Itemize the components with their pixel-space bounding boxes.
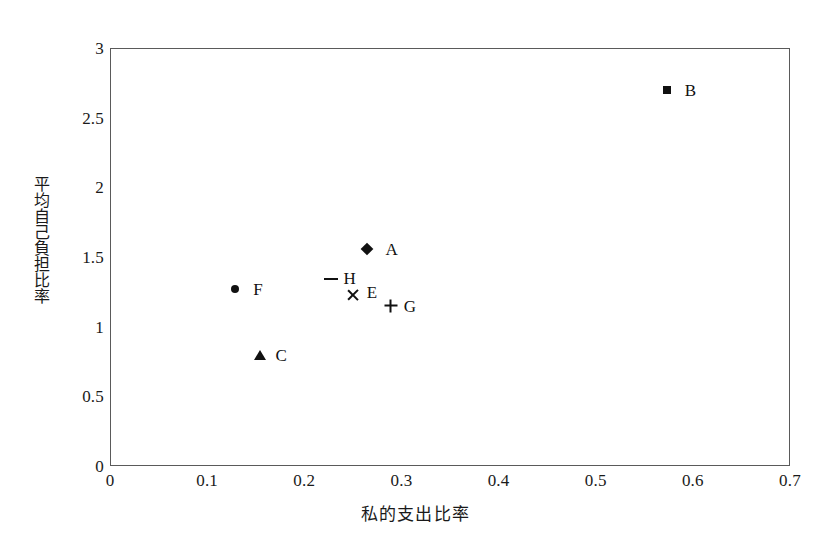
cross-marker-icon: [347, 289, 359, 301]
y-axis-tick-label: 1: [58, 319, 104, 336]
data-point-label: G: [404, 297, 416, 314]
y-axis-tick-label: 3: [58, 40, 104, 57]
data-point-label: E: [367, 283, 377, 300]
y-axis-tick-label: 2: [58, 179, 104, 196]
plot-area: [110, 48, 790, 466]
x-axis-tick-label: 0.6: [663, 472, 723, 489]
data-point-label: A: [385, 240, 397, 257]
y-axis-tick-labels: 00.511.522.53: [48, 0, 104, 547]
data-point-label: C: [276, 346, 287, 363]
y-axis-title: 平均自己負担比率: [28, 176, 50, 304]
y-axis-tick-label: 2.5: [58, 110, 104, 127]
square-marker-icon: [663, 86, 671, 94]
x-axis-tick-label: 0.1: [177, 472, 237, 489]
plus-marker-icon: [384, 299, 397, 312]
data-point-label: H: [344, 270, 356, 287]
y-axis-tick-label: 0.5: [58, 388, 104, 405]
x-axis-tick-label: 0.3: [371, 472, 431, 489]
scatter-chart: 00.511.522.53 00.10.20.30.40.50.60.7 ABC…: [0, 0, 831, 547]
x-axis-tick-label: 0.5: [566, 472, 626, 489]
data-point-label: F: [253, 281, 262, 298]
x-axis-tick-label: 0.4: [469, 472, 529, 489]
x-axis-title: 私的支出比率: [0, 500, 831, 525]
x-axis-tick-label: 0.7: [760, 472, 820, 489]
circle-marker-icon: [231, 285, 239, 293]
dash-marker-icon: [324, 278, 338, 280]
x-axis-tick-label: 0.2: [274, 472, 334, 489]
y-axis-tick-label: 1.5: [58, 249, 104, 266]
data-point-label: B: [685, 81, 696, 98]
x-axis-tick-label: 0: [80, 472, 140, 489]
triangle-marker-icon: [254, 350, 266, 360]
